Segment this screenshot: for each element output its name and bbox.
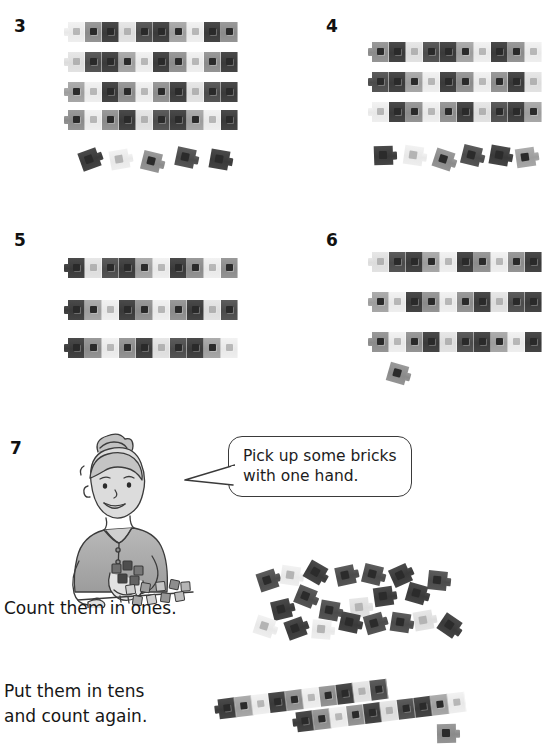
- brick-cube: [187, 258, 204, 278]
- worksheet-page: 3456 7: [0, 0, 548, 756]
- brick-cube: [119, 110, 136, 130]
- brick-cube: [119, 258, 136, 278]
- loose-brick: [515, 147, 536, 168]
- brick-cube: [187, 338, 204, 358]
- brick-cube: [102, 338, 119, 358]
- brick-cube: [153, 22, 170, 42]
- brick-cube: [447, 692, 466, 714]
- brick-cube: [136, 338, 153, 358]
- brick-cube: [406, 332, 423, 352]
- brick-cube: [457, 102, 474, 122]
- loose-brick: [293, 584, 318, 609]
- brick-cube: [372, 102, 389, 122]
- question-number-4: 4: [326, 18, 338, 35]
- brick-cube: [153, 52, 170, 72]
- brick-cube: [136, 258, 153, 278]
- brick-cube: [440, 72, 457, 92]
- brick-cube: [525, 102, 542, 122]
- loose-brick: [208, 148, 230, 170]
- brick-cube: [474, 292, 491, 312]
- loose-brick: [303, 560, 329, 586]
- brick-cube: [423, 292, 440, 312]
- brick-cube: [508, 292, 525, 312]
- activity-number: 7: [10, 440, 22, 457]
- brick-cube: [525, 292, 542, 312]
- question-number-3: 3: [14, 18, 26, 35]
- brick-cube: [136, 22, 153, 42]
- brick-cube: [85, 110, 102, 130]
- loose-brick: [318, 599, 340, 621]
- loose-brick: [361, 563, 384, 586]
- loose-brick: [270, 598, 293, 621]
- brick-rod: [372, 292, 542, 312]
- loose-brick: [488, 144, 510, 166]
- speech-bubble-line-2: with one hand.: [243, 466, 397, 486]
- brick-rod: [68, 338, 238, 358]
- brick-rod: [68, 110, 238, 130]
- brick-cube: [525, 252, 542, 272]
- brick-cube: [389, 252, 406, 272]
- brick-cube: [423, 42, 440, 62]
- brick-cube: [406, 42, 423, 62]
- brick-cube: [474, 332, 491, 352]
- brick-cube: [153, 338, 170, 358]
- loose-brick: [373, 586, 394, 607]
- loose-brick: [405, 582, 429, 606]
- brick-cube: [204, 82, 221, 102]
- brick-cube: [153, 110, 170, 130]
- loose-brick: [460, 144, 483, 167]
- brick-cube: [204, 22, 221, 42]
- brick-cube: [525, 42, 542, 62]
- brick-cube: [221, 258, 238, 278]
- brick-cube: [491, 292, 508, 312]
- brick-cube: [85, 300, 102, 320]
- brick-cube: [221, 52, 238, 72]
- loose-brick: [403, 145, 424, 166]
- brick-cube: [85, 258, 102, 278]
- loose-brick: [338, 611, 361, 634]
- brick-cube: [102, 110, 119, 130]
- loose-brick: [280, 565, 301, 586]
- brick-cube: [221, 22, 238, 42]
- brick-rod: [372, 102, 542, 122]
- brick-cube: [525, 332, 542, 352]
- loose-brick: [437, 724, 456, 743]
- brick-cube: [170, 22, 187, 42]
- brick-cube: [204, 258, 221, 278]
- brick-cube: [457, 72, 474, 92]
- brick-cube: [136, 110, 153, 130]
- brick-cube: [372, 72, 389, 92]
- question-number-6: 6: [326, 232, 338, 249]
- brick-cube: [474, 72, 491, 92]
- brick-cube: [119, 338, 136, 358]
- brick-cube: [68, 52, 85, 72]
- brick-cube: [170, 300, 187, 320]
- brick-cube: [170, 52, 187, 72]
- brick-cube: [372, 42, 389, 62]
- speech-bubble-line-1: Pick up some bricks: [243, 446, 397, 466]
- brick-cube: [204, 338, 221, 358]
- brick-cube: [389, 332, 406, 352]
- brick-rod: [372, 332, 542, 352]
- brick-cube: [136, 52, 153, 72]
- loose-brick: [334, 564, 357, 587]
- brick-cube: [508, 102, 525, 122]
- brick-rod: [68, 258, 238, 278]
- brick-cube: [68, 338, 85, 358]
- brick-cube: [457, 292, 474, 312]
- brick-cube: [187, 52, 204, 72]
- brick-cube: [187, 300, 204, 320]
- brick-cube: [423, 102, 440, 122]
- loose-brick: [283, 616, 307, 640]
- brick-cube: [457, 332, 474, 352]
- brick-cube: [423, 332, 440, 352]
- brick-cube: [102, 22, 119, 42]
- speech-bubble-tail: [183, 463, 235, 487]
- brick-cube: [204, 52, 221, 72]
- brick-cube: [457, 42, 474, 62]
- brick-cube: [474, 102, 491, 122]
- brick-cube: [68, 258, 85, 278]
- brick-cube: [372, 332, 389, 352]
- brick-cube: [204, 110, 221, 130]
- brick-cube: [119, 82, 136, 102]
